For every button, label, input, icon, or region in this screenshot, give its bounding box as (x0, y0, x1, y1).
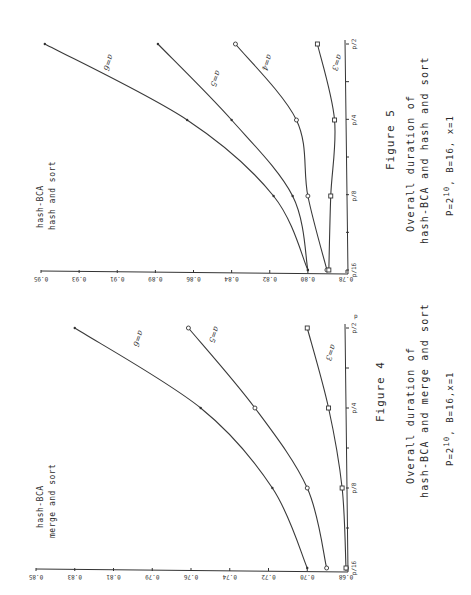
y-tick-label: 0.95 (33, 276, 48, 283)
y-tick-label: 0.72 (261, 574, 276, 581)
data-point (230, 119, 232, 121)
data-point (307, 269, 309, 271)
data-point (327, 406, 331, 410)
fig4-params: P=210, B=16,x=1 (442, 372, 455, 466)
fig5-figure-label: Figure 5 (384, 109, 397, 170)
data-point (233, 42, 237, 46)
data-point (44, 43, 46, 45)
data-point (305, 486, 309, 490)
data-point (333, 118, 337, 122)
data-point (306, 567, 308, 569)
x-tick-label: p/8 (350, 190, 358, 201)
y-tick-label: 0.89 (148, 276, 163, 283)
fig4-params-exp: 10 (442, 436, 451, 447)
curve-label: a=6 (101, 53, 115, 72)
fig4-params-base: P=2 (445, 447, 455, 466)
x-tick-label: p/16 (350, 560, 358, 575)
data-point (305, 326, 309, 330)
data-point (340, 486, 344, 490)
x-tick-label: p/2 (350, 322, 358, 333)
data-point (272, 195, 274, 197)
series-a3: a=3 (315, 42, 344, 272)
fig5-params-rest: , B=16, x=1 (445, 115, 455, 186)
curve-label: a=4 (260, 53, 274, 72)
x-axis-name: p (354, 312, 358, 320)
series-a5: a=5 (186, 325, 328, 570)
fig5-params-exp: 10 (442, 186, 451, 197)
data-point (199, 407, 201, 409)
figure-4-panel: 0.850.830.810.790.760.740.720.700.68p/16… (0, 298, 471, 595)
fig5-caption-line2: hash-BCA and hash and sort (418, 56, 431, 244)
y-tick-label: 0.80 (300, 276, 315, 283)
series-a3: a=3 (305, 326, 348, 570)
data-point (327, 268, 331, 272)
series-a4: a=4 (233, 42, 329, 272)
y-tick-label: 0.91 (110, 276, 125, 283)
value-axis: 0.850.830.810.790.760.740.720.700.68 (28, 568, 353, 581)
series-a6: a=6 (44, 43, 309, 271)
fig4-params-rest: , B=16,x=1 (445, 372, 455, 436)
figure-5-panel: 0.950.930.910.890.860.840.820.800.78p/16… (0, 0, 471, 298)
x-tick-label: p/4 (350, 114, 358, 125)
curve-label: a=5 (207, 325, 221, 344)
data-point (74, 327, 76, 329)
curve-label: a=3 (324, 343, 338, 362)
x-tick-label: p/8 (350, 482, 358, 493)
p-axis: p/16p/8p/4p/2 (345, 38, 358, 277)
fig4-ratio-numerator: hash-BCA (36, 485, 45, 528)
y-tick-label: 0.74 (222, 574, 237, 581)
y-tick-label: 0.85 (28, 574, 43, 581)
y-tick-label: 0.76 (183, 574, 198, 581)
figure-4-plot: 0.850.830.810.790.760.740.720.700.68p/16… (0, 298, 471, 595)
y-tick-label: 0.84 (224, 276, 239, 283)
curve-label: a=5 (208, 69, 222, 88)
curve-label: a=3 (330, 53, 344, 72)
fig4-ratio-denominator: merge and sort (48, 464, 57, 538)
data-point (329, 194, 333, 198)
figure-5-plot: 0.950.930.910.890.860.840.820.800.78p/16… (0, 0, 471, 298)
fig5-ratio-numerator: hash-BCA (36, 185, 45, 228)
fig5-params: P=210, B=16, x=1 (442, 115, 455, 216)
y-tick-label: 0.70 (300, 574, 315, 581)
data-point (325, 566, 329, 570)
x-tick-label: p/2 (350, 38, 358, 49)
y-tick-label: 0.86 (186, 276, 201, 283)
data-point (186, 326, 190, 330)
y-tick-label: 0.81 (106, 574, 121, 581)
fig5-params-base: P=2 (445, 197, 455, 216)
x-tick-label: p/16 (350, 262, 358, 277)
curve-label: a=6 (131, 329, 145, 348)
data-point (186, 119, 188, 121)
fig4-figure-label: Figure 4 (374, 361, 387, 422)
series-a6: a=6 (74, 327, 309, 569)
p-axis: p/16p/8p/4p/2p (345, 312, 358, 575)
fig5-caption-line1: Overall duration of (404, 95, 417, 232)
data-point (344, 566, 348, 570)
data-point (291, 195, 293, 197)
data-point (294, 118, 298, 122)
fig4-caption-line1: Overall duration of (404, 347, 417, 484)
data-point (157, 43, 159, 45)
y-tick-label: 0.79 (145, 574, 160, 581)
x-tick-label: p/4 (350, 402, 358, 413)
y-tick-label: 0.93 (72, 276, 87, 283)
data-point (253, 406, 257, 410)
fig4-caption-line2: hash-BCA and merge and sort (418, 303, 431, 498)
series-a5: a=5 (157, 43, 309, 271)
fig5-ratio-denominator: hash and sort (48, 161, 57, 230)
value-axis: 0.950.930.910.890.860.840.820.800.78 (33, 270, 353, 283)
y-tick-label: 0.82 (262, 276, 277, 283)
y-tick-label: 0.83 (67, 574, 82, 581)
data-point (315, 42, 319, 46)
data-point (271, 487, 273, 489)
data-point (306, 194, 310, 198)
